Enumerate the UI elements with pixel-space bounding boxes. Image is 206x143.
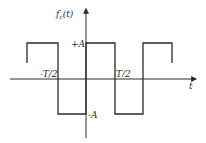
x-axis-label: t xyxy=(189,81,193,91)
neg-half-period-label: -T/2 xyxy=(40,69,58,79)
pos-half-period-label: T/2 xyxy=(116,69,131,79)
y-axis-label: fc(t) xyxy=(55,9,74,20)
plus-a-label: +A xyxy=(71,39,86,49)
minus-a-label: -A xyxy=(88,110,98,120)
square-wave-chart: fc(t) +A -A -T/2 T/2 t xyxy=(0,0,206,143)
